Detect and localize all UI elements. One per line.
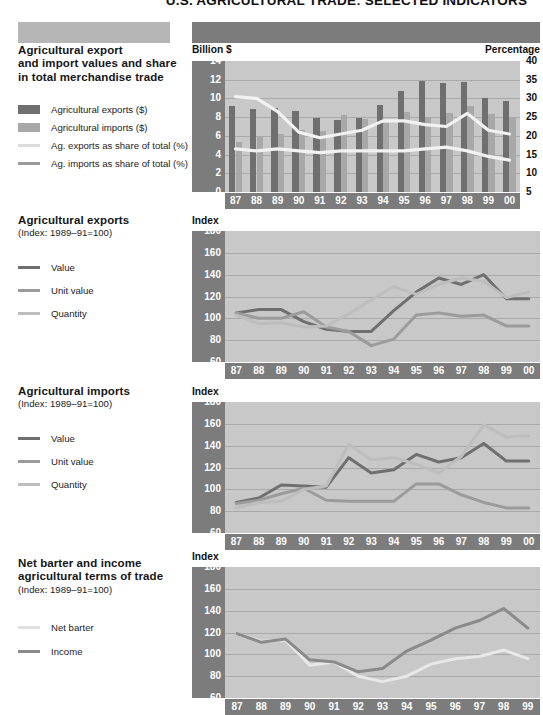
chart-agricultural-exports-index: Index 6080100120140160180 87888990919293…	[192, 215, 540, 379]
x-axis-tick-label: 97	[441, 196, 452, 206]
legend-swatch-value-line	[18, 266, 40, 269]
section-title-line3: in total merchandise trade	[18, 71, 164, 83]
legend-label: Unit value	[51, 456, 94, 467]
x-axis-band: 8788899091929394959697989900	[225, 193, 520, 209]
y2-axis-tick-label: 40	[526, 56, 537, 66]
y2-axis-tick-label: 15	[526, 150, 537, 160]
x-axis-tick-label: 97	[456, 366, 467, 376]
line-overlay	[225, 402, 540, 533]
legend-item: Agricultural imports ($)	[18, 118, 190, 136]
legend-item: Quantity	[18, 302, 190, 325]
x-axis-band: 8788899091929394959697989900	[225, 363, 540, 379]
legend-ag-exports: Value Unit value Quantity	[18, 256, 190, 325]
x-axis-tick-label: 99	[483, 196, 494, 206]
legend-swatch-quantity-line	[18, 312, 40, 315]
x-axis-tick-label: 88	[256, 702, 267, 712]
legend-label: Ag. imports as share of total (%)	[51, 158, 188, 169]
data-line	[236, 97, 510, 138]
x-axis-tick-label: 98	[498, 702, 509, 712]
plot-area	[225, 402, 540, 533]
line-overlay	[225, 231, 540, 362]
x-axis-tick-label: 89	[272, 196, 283, 206]
legend-swatch-exports-bar	[18, 105, 40, 114]
section-title: Agricultural imports	[18, 385, 190, 398]
line-overlay	[225, 61, 520, 192]
x-axis-band: 8788899091929394959697989900	[225, 534, 540, 550]
legend-item: Quantity	[18, 473, 190, 496]
chart-terms-of-trade-index: Index 6080100120140160180 87888990919293…	[192, 551, 540, 715]
y-axis-tick-label: 10	[210, 93, 221, 103]
sidebar-section-ag-exports: Agricultural exports (Index: 1989–91=100…	[18, 214, 190, 325]
legend-swatch-quantity-line	[18, 483, 40, 486]
y-axis-tick-label: 160	[204, 584, 221, 594]
legend-label: Quantity	[51, 479, 87, 490]
x-axis-tick-label: 87	[230, 196, 241, 206]
y-axis-tick-label: 80	[210, 671, 221, 681]
y-axis-tick-label: 6	[215, 131, 221, 141]
legend-label: Agricultural imports ($)	[51, 122, 148, 133]
y-axis-tick-label: 120	[204, 463, 221, 473]
x-axis-tick-label: 96	[433, 366, 444, 376]
x-axis-tick-label: 95	[411, 366, 422, 376]
x-axis-tick-label: 88	[253, 366, 264, 376]
x-axis-tick-label: 87	[231, 366, 242, 376]
x-axis-tick-label: 95	[411, 537, 422, 547]
plot-area	[225, 231, 540, 362]
y-axis-tick-label: 14	[210, 56, 221, 66]
x-axis-tick-label: 87	[231, 537, 242, 547]
x-axis-tick-label: 00	[523, 366, 534, 376]
legend-item: Net barter	[18, 616, 190, 640]
x-axis-tick-label: 96	[433, 537, 444, 547]
x-axis-tick-label: 99	[522, 702, 533, 712]
y-axis-tick-label: 180	[204, 226, 221, 236]
y2-axis-tick-label: 25	[526, 112, 537, 122]
x-axis-tick-label: 96	[450, 702, 461, 712]
y-axis-tick-label: 100	[204, 313, 221, 323]
section-subtitle: (Index: 1989–91=100)	[18, 584, 190, 596]
section-subtitle: (Index: 1989–91=100)	[18, 227, 190, 239]
x-axis-tick-label: 93	[366, 537, 377, 547]
y-axis-tick-label: 140	[204, 606, 221, 616]
y-axis-tick-label: 100	[204, 484, 221, 494]
section-title: Agricultural exports	[18, 214, 190, 227]
legend-label: Value	[51, 262, 75, 273]
x-axis-tick-label: 97	[456, 537, 467, 547]
x-axis-tick-label: 92	[343, 366, 354, 376]
x-axis-tick-label: 89	[280, 702, 291, 712]
x-axis-tick-label: 96	[420, 196, 431, 206]
y-axis-band: 02468101214	[192, 61, 225, 192]
x-axis-tick-label: 97	[474, 702, 485, 712]
legend-item: Ag. exports as share of total (%)	[18, 136, 190, 154]
line-overlay	[225, 567, 540, 698]
x-axis-tick-label: 98	[462, 196, 473, 206]
y-axis-tick-label: 8	[215, 112, 221, 122]
x-axis-tick-label: 98	[478, 366, 489, 376]
legend-label: Ag. exports as share of total (%)	[51, 140, 188, 151]
y2-axis-tick-label: 35	[526, 75, 537, 85]
poster-page: U.S. AGRICULTURAL TRADE: SELECTED INDICA…	[0, 0, 543, 715]
section-title-line1: Net barter and income	[18, 557, 142, 569]
x-axis-tick-label: 89	[276, 366, 287, 376]
x-axis-tick-label: 91	[321, 537, 332, 547]
y-axis-tick-label: 180	[204, 562, 221, 572]
y2-axis-tick-label: 30	[526, 93, 537, 103]
x-axis-tick-label: 91	[321, 366, 332, 376]
legend-swatch-unit-value-line	[18, 460, 40, 463]
y-axis-tick-label: 100	[204, 649, 221, 659]
x-axis-tick-label: 89	[276, 537, 287, 547]
x-axis-tick-label: 91	[314, 196, 325, 206]
legend-label: Unit value	[51, 285, 94, 296]
y2-axis-tick-label: 5	[526, 187, 532, 197]
y2-axis-unit-label: Percentage	[485, 44, 540, 55]
x-axis-tick-label: 00	[504, 196, 515, 206]
x-axis-tick-label: 88	[251, 196, 262, 206]
y-axis-tick-label: 80	[210, 335, 221, 345]
section-title: Net barter and income agricultural terms…	[18, 557, 190, 584]
legend-label: Income	[51, 646, 82, 657]
legend-swatch-unit-value-line	[18, 289, 40, 292]
x-axis-tick-label: 90	[304, 702, 315, 712]
x-axis-tick-label: 00	[523, 537, 534, 547]
x-axis-tick-label: 92	[343, 537, 354, 547]
legend-label: Quantity	[51, 308, 87, 319]
legend-item: Ag. imports as share of total (%)	[18, 154, 190, 172]
